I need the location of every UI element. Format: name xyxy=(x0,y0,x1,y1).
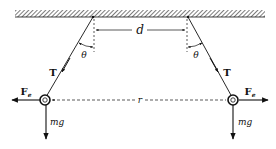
suspended-charges-diagram: d θ θ T T r Fe Fe mg mg xyxy=(0,0,276,149)
label-d: d xyxy=(136,23,144,37)
label-mg-right: mg xyxy=(238,117,253,127)
left-charged-sphere xyxy=(40,95,50,105)
right-charged-sphere xyxy=(228,95,238,105)
label-theta-right: θ xyxy=(193,50,199,60)
label-fe-left: Fe xyxy=(21,86,32,98)
label-r: r xyxy=(138,95,143,105)
label-mg-left: mg xyxy=(50,117,65,127)
left-angle-arc xyxy=(79,43,93,47)
label-fe-right: Fe xyxy=(245,86,256,98)
ceiling xyxy=(15,10,265,17)
right-tension-arrow xyxy=(210,58,218,72)
label-theta-left: θ xyxy=(81,50,87,60)
right-angle-arc xyxy=(188,43,202,47)
label-tension-left: T xyxy=(49,67,57,78)
label-tension-right: T xyxy=(223,67,231,78)
left-tension-arrow xyxy=(62,58,70,72)
